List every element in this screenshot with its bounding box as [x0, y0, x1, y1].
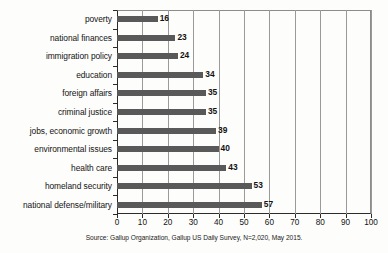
bar [117, 183, 252, 189]
bar [117, 35, 175, 41]
x-axis-tick-label: 60 [265, 218, 274, 227]
bar-value-label: 23 [177, 33, 186, 42]
y-axis-tick [113, 29, 117, 30]
bar-value-label: 24 [180, 51, 189, 60]
plot-area: 1623243435353940435357 [117, 10, 371, 214]
bar-value-label: 39 [218, 126, 227, 135]
x-axis-tick-label: 0 [115, 218, 120, 227]
x-axis-tick-label: 70 [290, 218, 299, 227]
category-label: immigration policy [0, 51, 112, 61]
bar [117, 128, 216, 134]
x-axis-tick-label: 30 [189, 218, 198, 227]
category-label: education [0, 70, 112, 80]
category-label: health care [0, 163, 112, 173]
bar-value-label: 53 [254, 181, 263, 190]
bar-value-label: 40 [221, 144, 230, 153]
bar-value-label: 35 [208, 88, 217, 97]
category-label: homeland security [0, 181, 112, 191]
category-label: national defense/military [0, 200, 112, 210]
x-axis-tick-label: 20 [163, 218, 172, 227]
category-label: jobs, economic growth [0, 126, 112, 136]
chart-figure: povertynational financesimmigration poli… [0, 0, 388, 253]
y-axis-tick [113, 177, 117, 178]
bar [117, 90, 206, 96]
bar [117, 53, 178, 59]
x-axis-tick-label: 80 [316, 218, 325, 227]
category-label: environmental issues [0, 144, 112, 154]
y-axis-tick [113, 195, 117, 196]
y-axis-tick [113, 66, 117, 67]
x-axis-tick-label: 100 [364, 218, 378, 227]
source-note: Source: Gallup Organization, Gallup US D… [0, 234, 388, 241]
category-label: criminal justice [0, 107, 112, 117]
category-label: poverty [0, 14, 112, 24]
gridline [320, 10, 321, 214]
x-axis-tick-label: 90 [341, 218, 350, 227]
y-axis-tick [113, 140, 117, 141]
category-label: foreign affairs [0, 88, 112, 98]
bar [117, 146, 219, 152]
gridline [269, 10, 270, 214]
y-axis-tick [113, 10, 117, 11]
bar-value-label: 43 [228, 163, 237, 172]
category-label: national finances [0, 33, 112, 43]
gridline [371, 10, 372, 214]
y-axis-tick [113, 84, 117, 85]
bar [117, 165, 226, 171]
x-axis-tick-label: 10 [138, 218, 147, 227]
bar [117, 72, 203, 78]
bar-value-label: 35 [208, 107, 217, 116]
bar [117, 16, 158, 22]
bar-value-label: 34 [205, 70, 214, 79]
category-axis-labels: povertynational financesimmigration poli… [0, 10, 112, 214]
x-axis: 0102030405060708090100 [117, 214, 371, 230]
x-axis-tick-label: 40 [214, 218, 223, 227]
y-axis-tick [113, 47, 117, 48]
y-axis-tick [113, 121, 117, 122]
gridline [295, 10, 296, 214]
bar [117, 202, 262, 208]
x-axis-tick-label: 50 [239, 218, 248, 227]
y-axis-tick [113, 103, 117, 104]
bar-value-label: 16 [160, 14, 169, 23]
y-axis-tick [113, 158, 117, 159]
bar-value-label: 57 [264, 200, 273, 209]
gridline [346, 10, 347, 214]
bar [117, 109, 206, 115]
